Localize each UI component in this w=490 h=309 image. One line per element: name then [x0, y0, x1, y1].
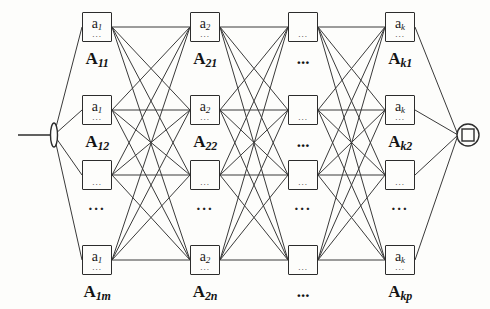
node-box-c3-r3[interactable]: ...	[288, 160, 318, 190]
group-label-c2-r2: A22	[160, 133, 250, 152]
column-ellipsis-c2: ...	[160, 198, 250, 213]
node-box-c1-r2[interactable]: a1...	[82, 95, 112, 125]
node-box-c1-r1[interactable]: a1...	[82, 12, 112, 42]
group-label-c3-r1: ...	[258, 50, 348, 67]
node-inner-ellipsis-c2-r2: ...	[191, 113, 219, 122]
node-box-c1-r3[interactable]: ...	[82, 160, 112, 190]
node-box-c2-r2[interactable]: a2...	[190, 95, 220, 125]
node-box-c3-r2[interactable]: ...	[288, 95, 318, 125]
column-ellipsis-c1: ...	[52, 198, 142, 213]
group-label-c1-r2: A12	[52, 133, 142, 152]
group-label-subscript-c1-r1: 11	[98, 56, 109, 70]
node-box-c4-r2[interactable]: ak...	[385, 95, 415, 125]
group-label-subscript-c4-r2: k2	[400, 139, 411, 153]
group-label-c3-r2: ...	[258, 133, 348, 150]
group-label-c4-r2: Ak2	[355, 133, 445, 152]
node-inner-ellipsis-c3-r3: ...	[289, 178, 317, 187]
node-inner-ellipsis-c1-r2: ...	[83, 113, 111, 122]
node-box-c4-r1[interactable]: ak...	[385, 12, 415, 42]
group-label-subscript-c1-r4: 1m	[96, 289, 111, 303]
node-inner-ellipsis-c1-r4: ...	[83, 263, 111, 272]
node-box-c1-r4[interactable]: a1...	[82, 245, 112, 275]
group-label-subscript-c2-r4: 2n	[205, 289, 217, 303]
node-inner-ellipsis-c4-r4: ...	[386, 263, 414, 272]
node-inner-ellipsis-c4-r1: ...	[386, 30, 414, 39]
group-label-subscript-c1-r2: 12	[97, 139, 108, 153]
node-inner-ellipsis-c3-r1: ...	[289, 30, 317, 39]
group-label-c2-r1: A21	[160, 50, 250, 69]
group-label-subscript-c2-r2: 22	[205, 139, 216, 153]
group-label-subscript-c4-r1: k1	[400, 56, 411, 70]
node-box-c3-r1[interactable]: ...	[288, 12, 318, 42]
diagram-canvas: a1...A11a1...A12...a1...A1m...a2...A21a2…	[0, 0, 490, 309]
column-ellipsis-c3: ...	[258, 198, 348, 213]
group-label-c2-r4: A2n	[160, 283, 250, 302]
group-label-subscript-c2-r1: 21	[205, 56, 216, 70]
node-box-c4-r3[interactable]: ...	[385, 160, 415, 190]
node-box-c2-r4[interactable]: a2...	[190, 245, 220, 275]
connection-edges-layer	[0, 0, 490, 309]
node-inner-ellipsis-c3-r4: ...	[289, 263, 317, 272]
node-inner-ellipsis-c2-r1: ...	[191, 30, 219, 39]
node-box-c2-r3[interactable]: ...	[190, 160, 220, 190]
output-node	[452, 119, 484, 151]
node-inner-ellipsis-c1-r3: ...	[83, 178, 111, 187]
node-inner-ellipsis-c4-r2: ...	[386, 113, 414, 122]
node-box-c2-r1[interactable]: a2...	[190, 12, 220, 42]
node-inner-ellipsis-c3-r2: ...	[289, 113, 317, 122]
node-box-c3-r4[interactable]: ...	[288, 245, 318, 275]
group-label-subscript-c4-r4: kp	[400, 289, 411, 303]
group-label-c1-r4: A1m	[52, 283, 142, 302]
group-label-c1-r1: A11	[52, 50, 142, 69]
group-label-c4-r1: Ak1	[355, 50, 445, 69]
column-ellipsis-c4: ...	[355, 198, 445, 213]
node-inner-ellipsis-c2-r4: ...	[191, 263, 219, 272]
group-label-c4-r4: Akp	[355, 283, 445, 302]
group-label-c3-r4: ...	[258, 283, 348, 300]
node-inner-ellipsis-c1-r1: ...	[83, 30, 111, 39]
node-inner-ellipsis-c2-r3: ...	[191, 178, 219, 187]
node-box-c4-r4[interactable]: ak...	[385, 245, 415, 275]
node-inner-ellipsis-c4-r3: ...	[386, 178, 414, 187]
